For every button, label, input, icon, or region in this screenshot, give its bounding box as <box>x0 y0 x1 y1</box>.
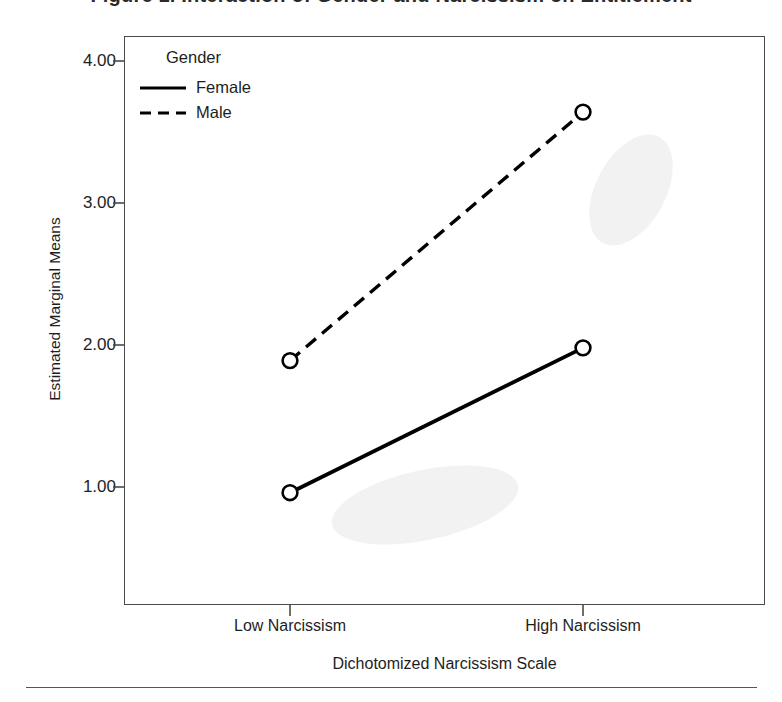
x-tick-label-high: High Narcissism <box>473 617 693 635</box>
x-axis-title: Dichotomized Narcissism Scale <box>124 655 765 673</box>
legend-line-solid-icon <box>139 81 187 95</box>
legend-line-dashed-icon <box>139 106 187 120</box>
x-tick-label-low: Low Narcissism <box>180 617 400 635</box>
y-tick-label-1: 1.00 <box>44 477 116 497</box>
legend-item-male: Male <box>139 100 349 125</box>
y-axis-tick-labels: 4.00 3.00 2.00 1.00 Estimated Marginal M… <box>28 0 116 702</box>
y-axis-title: Estimated Marginal Means <box>46 179 64 439</box>
legend-item-female: Female <box>139 75 349 100</box>
x-axis-ticks <box>290 605 583 616</box>
y-tick-label-4: 4.00 <box>44 51 116 71</box>
footer-divider <box>26 687 757 688</box>
legend-label-male: Male <box>196 103 232 122</box>
legend-label-female: Female <box>196 78 251 97</box>
legend: Gender Female Male <box>139 48 349 125</box>
figure-container: 4.00 3.00 2.00 1.00 Estimated Marginal M… <box>0 0 782 702</box>
legend-title: Gender <box>166 48 349 67</box>
